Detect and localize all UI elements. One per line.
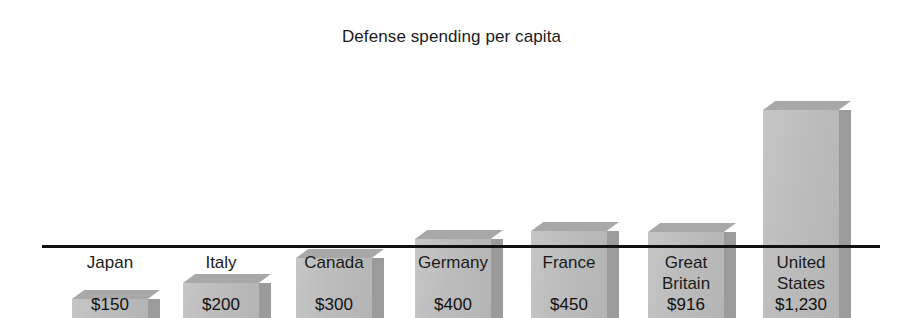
bar-label-line2: Britain xyxy=(638,273,734,294)
bar-shape-france: $450 xyxy=(531,71,631,318)
bar-side-face xyxy=(491,239,503,318)
baseline-axis xyxy=(42,245,880,248)
bar-label-line1: France xyxy=(521,252,617,273)
bar-shape-germany: $400 xyxy=(415,71,515,318)
bar-label-line1: Great xyxy=(638,252,734,273)
bar-label-france: France xyxy=(521,252,617,273)
bar-group-germany: $400 xyxy=(415,71,515,318)
bar-label-line1: Germany xyxy=(405,252,501,273)
bar-label-line1: Japan xyxy=(62,252,158,273)
bar-label-canada: Canada xyxy=(286,252,382,273)
bar-label-line1: Italy xyxy=(173,252,269,273)
bar-top-face xyxy=(763,101,851,110)
plot-area: $150 Japan $200 Italy xyxy=(0,0,903,318)
bar-shape-japan: $150 xyxy=(72,71,172,318)
bar-label-line2: States xyxy=(753,273,849,294)
bar-side-face xyxy=(259,283,271,318)
bar-label-germany: Germany xyxy=(405,252,501,273)
bar-group-france: $450 xyxy=(531,71,631,318)
defense-spending-bar-chart: Defense spending per capita $150 Japan $… xyxy=(0,0,903,318)
bar-front-face: $200 xyxy=(183,283,259,318)
bar-value-label: $916 xyxy=(648,295,724,315)
bar-top-face xyxy=(648,223,736,232)
bar-value-label: $400 xyxy=(415,295,491,315)
bar-label-japan: Japan xyxy=(62,252,158,273)
bar-label-italy: Italy xyxy=(173,252,269,273)
bar-label-line1: United xyxy=(753,252,849,273)
bar-value-label: $200 xyxy=(183,295,259,315)
bar-group-japan: $150 xyxy=(72,71,172,318)
bar-value-label: $450 xyxy=(531,295,607,315)
bar-front-face: $150 xyxy=(72,299,148,318)
bar-shape-canada: $300 xyxy=(296,71,396,318)
bar-top-face xyxy=(531,222,619,231)
bar-top-face xyxy=(183,274,271,283)
bar-front-face: $400 xyxy=(415,239,491,318)
bar-label-line1: Canada xyxy=(286,252,382,273)
bar-group-italy: $200 xyxy=(183,71,283,318)
bar-value-label: $300 xyxy=(296,295,372,315)
bar-value-label: $1,230 xyxy=(763,295,839,315)
bar-value-label: $150 xyxy=(72,295,148,315)
bar-label-united-states: United States xyxy=(753,252,849,294)
bar-group-canada: $300 xyxy=(296,71,396,318)
bar-label-great-britain: Great Britain xyxy=(638,252,734,294)
bar-shape-italy: $200 xyxy=(183,71,283,318)
bar-top-face xyxy=(415,230,503,239)
bar-side-face xyxy=(148,299,160,318)
